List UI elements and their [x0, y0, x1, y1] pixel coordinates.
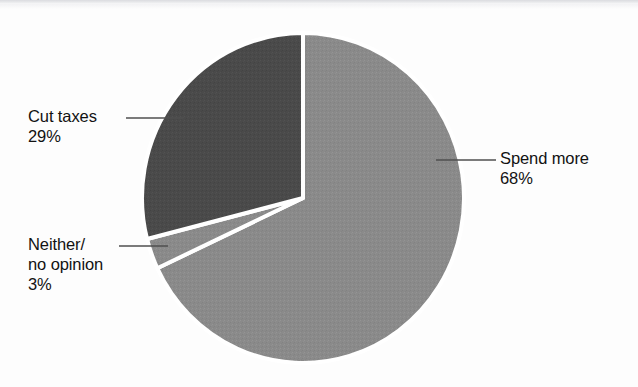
pie-label-cut-taxes-percent: 29%	[28, 126, 97, 146]
pie-slices	[142, 33, 464, 363]
pie-label-spend-more: Spend more 68%	[500, 148, 589, 188]
pie-label-neither-percent: 3%	[28, 274, 103, 294]
pie-label-neither-line2: no opinion	[28, 254, 103, 274]
pie-label-neither-line1: Neither/	[28, 235, 85, 253]
pie-label-spend-more-name: Spend more	[500, 149, 589, 167]
pie-label-neither-no-opinion: Neither/ no opinion 3%	[28, 234, 103, 294]
pie-chart-svg	[0, 0, 638, 387]
pie-chart-figure: Cut taxes 29% Neither/ no opinion 3% Spe…	[0, 0, 638, 387]
pie-label-cut-taxes-name: Cut taxes	[28, 107, 97, 125]
pie-label-spend-more-percent: 68%	[500, 168, 589, 188]
pie-label-cut-taxes: Cut taxes 29%	[28, 106, 97, 146]
